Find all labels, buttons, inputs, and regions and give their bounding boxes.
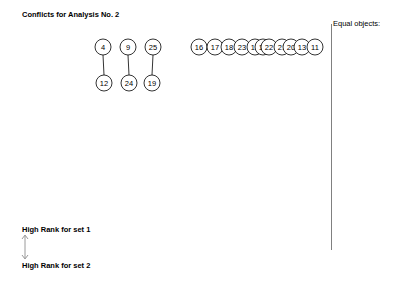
svg-text:9: 9 <box>126 43 130 52</box>
legend-high-rank-set-1: High Rank for set 1 <box>22 225 90 234</box>
svg-text:16: 16 <box>195 43 203 52</box>
svg-text:18: 18 <box>225 43 233 52</box>
svg-text:11: 11 <box>311 43 319 52</box>
svg-text:22: 22 <box>265 43 273 52</box>
svg-text:25: 25 <box>149 43 157 52</box>
svg-text:19: 19 <box>148 79 156 88</box>
svg-text:4: 4 <box>101 43 105 52</box>
node-pair-1-bottom[interactable]: 24 <box>121 75 137 91</box>
node-pair-0-bottom[interactable]: 12 <box>96 75 112 91</box>
double-arrow-icon <box>22 235 28 259</box>
legend-high-rank-set-2: High Rank for set 2 <box>22 261 90 270</box>
svg-text:23: 23 <box>238 43 246 52</box>
svg-text:17: 17 <box>211 43 219 52</box>
node-pair-2-bottom[interactable]: 19 <box>144 75 160 91</box>
conflict-graph: 4 12 9 24 25 19 16 17 18 23 15 14 22 21 … <box>0 0 402 286</box>
node-pair-2-top[interactable]: 25 <box>145 39 161 55</box>
node-pair-1-top[interactable]: 9 <box>120 39 136 55</box>
node-single[interactable]: 11 <box>307 39 323 55</box>
svg-text:12: 12 <box>100 79 108 88</box>
svg-text:24: 24 <box>125 79 133 88</box>
node-pair-0-top[interactable]: 4 <box>95 39 111 55</box>
svg-text:13: 13 <box>298 43 306 52</box>
node-single[interactable]: 16 <box>191 39 207 55</box>
